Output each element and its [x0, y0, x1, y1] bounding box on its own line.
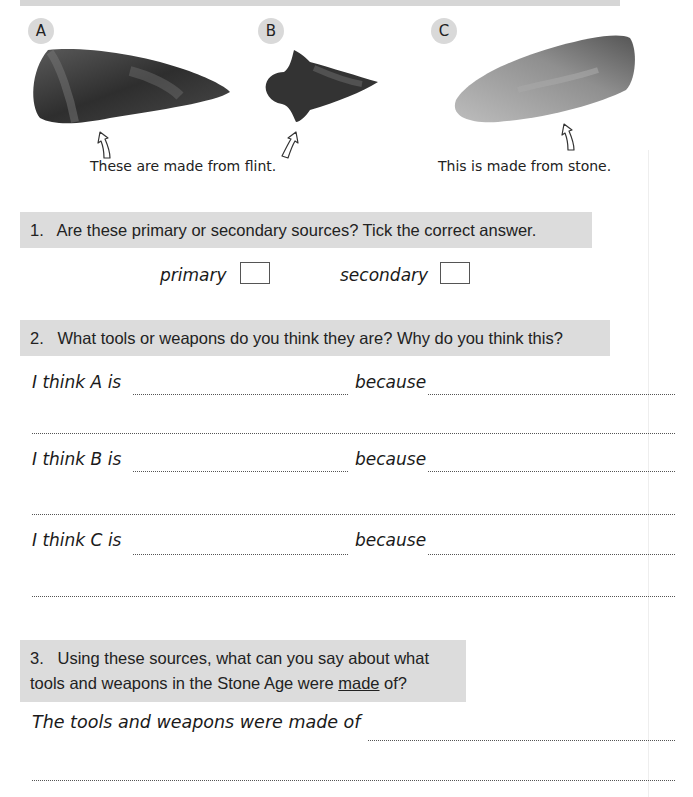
reason-line-b[interactable] — [428, 471, 675, 472]
because-label-a: because — [355, 372, 426, 392]
source-a-badge: A — [28, 18, 54, 44]
question-3-continuation-line[interactable] — [32, 780, 675, 781]
question-1-number: 1. — [30, 221, 44, 239]
page-margin-rule — [648, 150, 649, 797]
flint-arrowhead-image-b — [262, 48, 382, 124]
arrow-pointer-icon-a — [96, 130, 118, 160]
reason-line-c[interactable] — [428, 554, 675, 555]
prompt-a: I think A is — [32, 372, 121, 392]
question-1-text: Are these primary or secondary sources? … — [57, 221, 537, 239]
arrow-pointer-icon-c — [560, 122, 582, 152]
primary-tickbox[interactable] — [240, 262, 270, 284]
source-b-badge: B — [258, 18, 284, 44]
prompt-b: I think B is — [32, 449, 121, 469]
option-primary-label: primary — [160, 265, 227, 285]
question-3-answer-line[interactable] — [368, 740, 675, 741]
question-3-underlined-word: made — [338, 674, 379, 692]
question-2-number: 2. — [30, 329, 44, 347]
arrow-pointer-icon-b — [278, 130, 300, 160]
secondary-tickbox[interactable] — [440, 262, 470, 284]
prompt-c: I think C is — [32, 530, 121, 550]
question-3-prompt: The tools and weapons were made of — [32, 712, 360, 732]
stone-axe-image-c — [448, 30, 638, 128]
because-label-c: because — [355, 530, 426, 550]
question-3-line-2-end: of? — [380, 674, 408, 692]
reason-continuation-line-c[interactable] — [32, 596, 675, 597]
flint-blade-image-a — [30, 46, 235, 128]
reason-continuation-line-b[interactable] — [32, 514, 675, 515]
answer-line-b[interactable] — [133, 471, 348, 472]
question-3-number: 3. — [30, 649, 44, 667]
question-3-bar: 3. Using these sources, what can you say… — [20, 640, 466, 702]
top-header-bar — [20, 0, 620, 6]
answer-line-c[interactable] — [133, 554, 348, 555]
because-label-b: because — [355, 449, 426, 469]
reason-line-a[interactable] — [428, 394, 675, 395]
stone-caption: This is made from stone. — [438, 158, 611, 174]
question-1-bar: 1. Are these primary or secondary source… — [20, 212, 592, 248]
answer-line-a[interactable] — [133, 394, 348, 395]
reason-continuation-line-a[interactable] — [32, 433, 675, 434]
question-2-bar: 2. What tools or weapons do you think th… — [20, 320, 610, 356]
question-2-text: What tools or weapons do you think they … — [58, 329, 563, 347]
question-3-line-1: Using these sources, what can you say ab… — [58, 649, 429, 667]
option-secondary-label: secondary — [340, 265, 428, 285]
flint-caption: These are made from flint. — [90, 158, 276, 174]
question-3-line-2-start: tools and weapons in the Stone Age were — [30, 674, 338, 692]
